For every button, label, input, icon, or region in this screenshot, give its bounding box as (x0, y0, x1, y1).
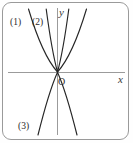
curve-label-3: (3) (18, 122, 29, 132)
curve-label-1: (1) (10, 18, 21, 28)
origin-label: O (58, 77, 65, 87)
y-axis-label: y (59, 7, 64, 18)
curve-label-2: (2) (32, 18, 43, 28)
figure-container: y x O (1) (2) (3) (0, 0, 133, 143)
x-axis-label: x (118, 74, 123, 85)
